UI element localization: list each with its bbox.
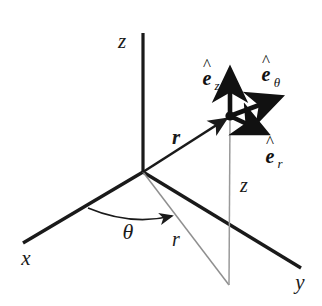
unit-vector-etheta-arrow [230, 98, 278, 116]
y-axis-label: y [293, 270, 305, 294]
position-vector-arrow [143, 119, 226, 172]
theta-angle-label: θ [123, 219, 134, 244]
x-axis-label: x [20, 246, 31, 270]
unit-vector-er-label: ^ e r [266, 132, 284, 171]
ez-subscript: z [213, 78, 219, 93]
radius-projection-line [143, 172, 229, 285]
etheta-subscript: θ [274, 75, 281, 90]
projection-lines [143, 117, 230, 285]
theta-arc-group [88, 208, 172, 220]
axial-height-label: z [239, 174, 248, 196]
y-axis-line [143, 172, 301, 268]
etheta-base-letter: e [262, 63, 271, 85]
axis-lines [23, 33, 301, 268]
cylindrical-coordinates-diagram: z x y θ r z r ^ e z ^ e θ ^ e r [0, 0, 322, 306]
radial-distance-label: r [172, 228, 180, 250]
z-axis-label: z [117, 29, 126, 53]
er-subscript: r [277, 156, 283, 171]
unit-vector-ez-label: ^ e z [203, 55, 220, 93]
position-vector-group [143, 119, 226, 172]
z-height-line [229, 117, 230, 285]
figure-canvas: z x y θ r z r ^ e z ^ e θ ^ e r [0, 0, 322, 306]
theta-arc [88, 208, 172, 220]
ez-base-letter: e [203, 67, 212, 89]
position-vector-label: r [172, 125, 181, 149]
unit-vector-er-arrow [230, 116, 264, 132]
point-marker [225, 111, 234, 120]
unit-vector-etheta-label: ^ e θ [262, 51, 281, 90]
er-base-letter: e [266, 145, 275, 167]
